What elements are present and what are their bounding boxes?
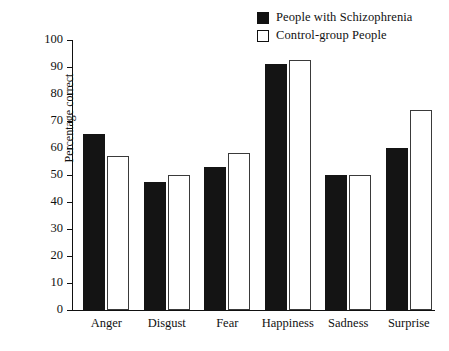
y-tick-label-20: 20 [51, 248, 64, 263]
bar-chart: People with Schizophrenia Control-group … [0, 0, 449, 351]
y-axis-line [72, 40, 73, 311]
bar-disgust-control [168, 175, 190, 310]
y-tick-30: 30 [67, 229, 72, 230]
legend-item-schizophrenia: People with Schizophrenia [257, 10, 413, 25]
filled-square-icon [257, 12, 269, 24]
y-tick-label-60: 60 [51, 140, 64, 155]
bar-fear-control [228, 153, 250, 310]
y-tick-90: 90 [67, 67, 72, 68]
y-tick-label-30: 30 [51, 221, 64, 236]
y-tick-0: 0 [67, 310, 72, 311]
y-tick-label-40: 40 [51, 194, 64, 209]
plot-area: 100 90 80 70 60 50 40 30 20 10 0 AngerDi… [72, 40, 435, 310]
x-axis-line [72, 310, 435, 311]
bar-group: Fear [197, 40, 258, 310]
y-tick-label-70: 70 [51, 113, 64, 128]
x-tick-label-surprise: Surprise [379, 316, 440, 331]
bar-happiness-control [289, 60, 311, 310]
bar-group: Happiness [258, 40, 319, 310]
chart-legend: People with Schizophrenia Control-group … [257, 10, 413, 43]
bar-surprise-schizophrenia [386, 148, 408, 310]
bar-surprise-control [410, 110, 432, 310]
bar-group: Anger [76, 40, 137, 310]
y-tick-20: 20 [67, 256, 72, 257]
x-tick-label-fear: Fear [197, 316, 258, 331]
y-tick-50: 50 [67, 175, 72, 176]
y-tick-100: 100 [67, 40, 72, 41]
bar-fear-schizophrenia [204, 167, 226, 310]
y-tick-10: 10 [67, 283, 72, 284]
y-tick-label-0: 0 [57, 302, 63, 317]
x-tick-label-happiness: Happiness [258, 316, 319, 331]
legend-label-schizophrenia: People with Schizophrenia [276, 11, 413, 24]
x-tick-label-sadness: Sadness [318, 316, 379, 331]
y-tick-label-10: 10 [51, 275, 64, 290]
bar-group: Disgust [137, 40, 198, 310]
y-tick-label-80: 80 [51, 86, 64, 101]
y-tick-60: 60 [67, 148, 72, 149]
bar-sadness-control [349, 175, 371, 310]
bar-happiness-schizophrenia [265, 64, 287, 310]
y-tick-label-50: 50 [51, 167, 64, 182]
x-tick-label-disgust: Disgust [137, 316, 198, 331]
x-tick-label-anger: Anger [76, 316, 137, 331]
y-tick-40: 40 [67, 202, 72, 203]
y-tick-80: 80 [67, 94, 72, 95]
y-tick-70: 70 [67, 121, 72, 122]
bar-anger-schizophrenia [83, 134, 105, 310]
bar-group: Sadness [318, 40, 379, 310]
bar-disgust-schizophrenia [144, 182, 166, 310]
y-tick-label-100: 100 [44, 32, 63, 47]
bar-anger-control [107, 156, 129, 310]
bar-group: Surprise [379, 40, 440, 310]
y-tick-label-90: 90 [51, 59, 64, 74]
bar-sadness-schizophrenia [325, 175, 347, 310]
